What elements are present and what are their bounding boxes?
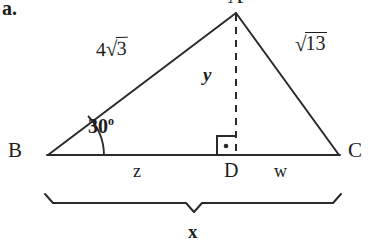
- item-letter: a.: [2, 0, 17, 18]
- base-total-label-x: x: [188, 222, 198, 241]
- radical-coefficient: 4: [96, 38, 106, 60]
- side-length-ac: √13: [295, 33, 327, 55]
- vertex-label-d: D: [224, 160, 238, 180]
- vertex-label-c: C: [348, 140, 362, 161]
- right-angle-dot-icon: [224, 144, 229, 149]
- degree-symbol-icon: o: [108, 114, 114, 128]
- radical-radicand: 3: [115, 37, 127, 58]
- angle-value: 30: [88, 115, 108, 137]
- vertex-label-b: B: [8, 140, 22, 161]
- radical-radicand: 13: [305, 32, 327, 53]
- base-segment-label-w: w: [274, 162, 287, 180]
- angle-label-30: 30o: [88, 115, 114, 136]
- radical-expression-root13: √13: [295, 33, 327, 55]
- vertex-label-a: A: [228, 0, 243, 7]
- side-length-ba: 4√3: [96, 38, 128, 61]
- geometry-figure: a. A B C 4√3 √13 y 30o z D w x: [0, 0, 371, 250]
- base-brace: [45, 194, 341, 212]
- altitude-label-y: y: [203, 65, 211, 84]
- base-segment-label-z: z: [133, 162, 141, 180]
- radical-expression-4root3: 4√3: [96, 38, 128, 61]
